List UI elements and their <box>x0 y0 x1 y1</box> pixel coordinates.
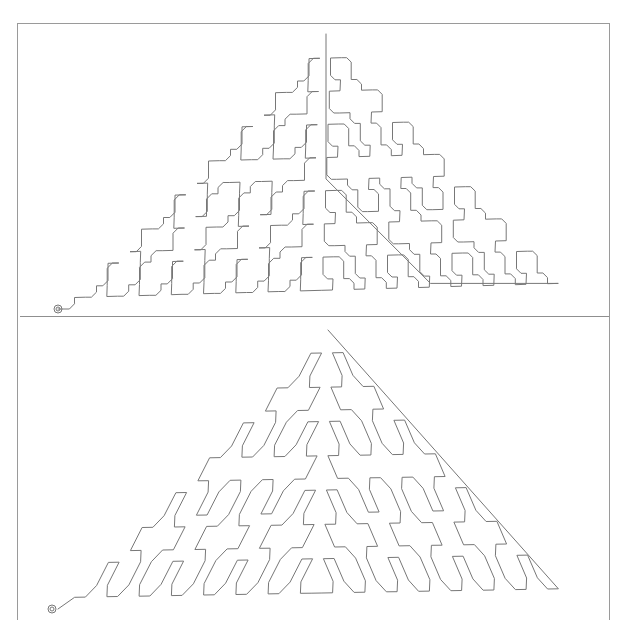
space-filling-curve-diagonal <box>58 330 558 609</box>
space-filling-curve-rounded <box>58 34 558 309</box>
start-marker-icon <box>48 605 56 613</box>
panel-bottom-diagonal-curve <box>18 318 609 620</box>
top-curve-canvas <box>18 24 609 316</box>
panel-divider <box>20 316 609 317</box>
bottom-curve-canvas <box>18 318 609 620</box>
panel-top-orthogonal-curve <box>18 24 609 316</box>
